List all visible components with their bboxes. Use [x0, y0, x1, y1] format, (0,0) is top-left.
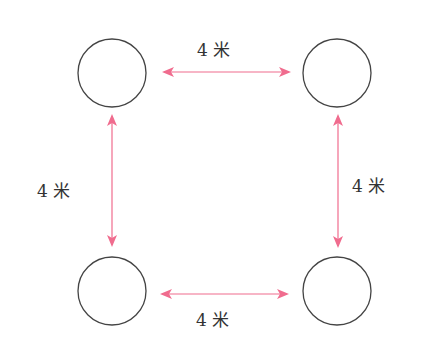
label-bottom: 4 米 [196, 306, 229, 331]
label-right: 4 米 [352, 172, 385, 197]
circle-top-left [78, 39, 146, 107]
circle-bottom-right [303, 257, 371, 325]
label-top: 4 米 [197, 36, 230, 61]
circle-top-right [303, 39, 371, 107]
circle-bottom-left [78, 257, 146, 325]
label-left: 4 米 [37, 177, 70, 202]
